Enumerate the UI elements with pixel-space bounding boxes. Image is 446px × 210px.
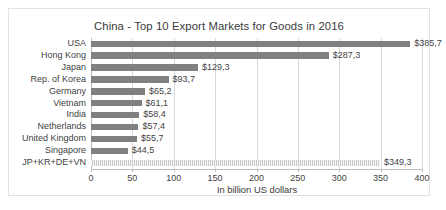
bar-row: Japan$129,3 <box>91 62 446 74</box>
category-label: JP+KR+DE+VN <box>22 156 86 168</box>
tick-mark-400 <box>422 169 423 172</box>
bar-value-label: $44,5 <box>132 144 155 156</box>
category-label: Netherlands <box>37 120 86 132</box>
bar-rows: USA$385,7Hong Kong$287,3Japan$129,3Rep. … <box>91 38 422 169</box>
bar-value-label: $287,3 <box>333 49 361 61</box>
tick-mark-150 <box>215 169 216 172</box>
category-label: Germany <box>49 85 86 97</box>
bar[interactable] <box>91 124 138 130</box>
bar-value-label: $57,4 <box>142 120 165 132</box>
x-tick-label: 200 <box>249 173 264 183</box>
category-label: Hong Kong <box>41 49 86 61</box>
plot-area: USA$385,7Hong Kong$287,3Japan$129,3Rep. … <box>91 38 422 169</box>
tick-mark-350 <box>381 169 382 172</box>
x-tick-label: 0 <box>88 173 93 183</box>
tick-mark-200 <box>257 169 258 172</box>
tick-mark-300 <box>339 169 340 172</box>
bar[interactable] <box>91 148 128 154</box>
bar-value-label: $129,3 <box>202 61 230 73</box>
tick-mark-50 <box>132 169 133 172</box>
bar[interactable] <box>91 88 145 94</box>
bar-value-label: $385,7 <box>414 37 442 49</box>
bar-value-label: $93,7 <box>173 73 196 85</box>
category-label: Singapore <box>45 144 86 156</box>
category-label: India <box>66 108 86 120</box>
bar[interactable] <box>91 100 142 106</box>
bar-value-label: $349,3 <box>384 156 412 168</box>
bar[interactable] <box>91 52 329 58</box>
category-label: USA <box>67 37 86 49</box>
bar-value-label: $58,4 <box>143 108 166 120</box>
category-label: Rep. of Korea <box>30 73 86 85</box>
category-label: United Kingdom <box>22 132 86 144</box>
bar-row: USA$385,7 <box>91 38 446 50</box>
x-tick-label: 350 <box>373 173 388 183</box>
bar-value-label: $65,2 <box>149 85 172 97</box>
bar[interactable] <box>91 160 380 166</box>
category-label: Vietnam <box>53 97 86 109</box>
bar[interactable] <box>91 136 137 142</box>
bar-row: Hong Kong$287,3 <box>91 50 446 62</box>
x-axis-title: In billion US dollars <box>91 184 423 195</box>
x-tick-label: 400 <box>414 173 429 183</box>
x-tick-label: 150 <box>208 173 223 183</box>
bar-row: Rep. of Korea$93,7 <box>91 74 446 86</box>
x-tick-label: 250 <box>290 173 305 183</box>
category-label: Japan <box>61 61 86 73</box>
bar[interactable] <box>91 76 169 82</box>
chart-container: China - Top 10 Export Markets for Goods … <box>8 8 430 196</box>
x-tick-label: 100 <box>166 173 181 183</box>
tick-mark-100 <box>174 169 175 172</box>
bar[interactable] <box>91 41 410 47</box>
bar-value-label: $61,1 <box>146 97 169 109</box>
x-tick-label: 300 <box>332 173 347 183</box>
tick-mark-0 <box>91 169 92 172</box>
bar-row: Germany$65,2 <box>91 86 446 98</box>
bar[interactable] <box>91 112 139 118</box>
bar-value-label: $55,7 <box>141 132 164 144</box>
x-tick-label: 50 <box>127 173 137 183</box>
chart-title: China - Top 10 Export Markets for Goods … <box>9 20 429 32</box>
bar-row: JP+KR+DE+VN$349,3 <box>91 157 446 169</box>
tick-mark-250 <box>298 169 299 172</box>
bar[interactable] <box>91 64 198 70</box>
